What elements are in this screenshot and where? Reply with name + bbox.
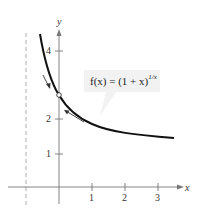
y-axis-label: y [56, 16, 62, 27]
y-tick-label-1: 1 [46, 148, 51, 159]
x-axis-label: x [184, 182, 190, 193]
x-axis-arrow-icon [177, 185, 184, 190]
function-label-exponent: 1/x [148, 73, 157, 81]
left-arrowhead-icon [46, 83, 51, 89]
function-label: f(x) = (1 + x)1/x [90, 74, 157, 87]
function-label-text: f(x) = (1 + x) [90, 75, 148, 87]
x-tick-label-3: 3 [155, 192, 160, 203]
x-tick-label-1: 1 [89, 192, 94, 203]
y-axis-arrow-icon [57, 29, 62, 36]
function-plot: 1 2 3 x 1 2 4 y [0, 0, 203, 213]
label-pointer [100, 92, 116, 116]
x-tick-label-2: 2 [122, 192, 127, 203]
hole-marker [57, 93, 62, 98]
y-tick-label-2: 2 [46, 113, 51, 124]
y-tick-label-4: 4 [46, 45, 51, 56]
